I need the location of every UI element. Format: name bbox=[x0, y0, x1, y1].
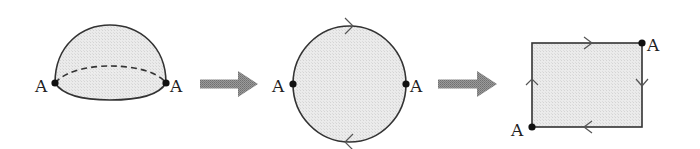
label-a-left: A bbox=[271, 76, 285, 96]
disk-shape bbox=[293, 26, 406, 142]
disk: A A bbox=[271, 18, 423, 149]
square: A A bbox=[510, 35, 660, 140]
diagram-canvas: A A A A A A bbox=[0, 0, 700, 149]
square-shape bbox=[532, 43, 642, 127]
right-arrow-icon bbox=[200, 71, 258, 97]
point-a-left-icon bbox=[51, 79, 58, 86]
label-a-left: A bbox=[34, 76, 48, 96]
point-a-left-icon bbox=[289, 80, 296, 87]
point-a-top-right-icon bbox=[638, 39, 645, 46]
point-a-right-icon bbox=[402, 80, 409, 87]
label-a-right: A bbox=[409, 76, 423, 96]
point-a-right-icon bbox=[162, 79, 169, 86]
label-a-bottom-left: A bbox=[510, 120, 524, 140]
right-arrow-icon bbox=[438, 71, 497, 97]
label-a-right: A bbox=[169, 76, 183, 96]
point-a-bottom-left-icon bbox=[528, 123, 535, 130]
label-a-top-right: A bbox=[646, 35, 660, 55]
hemisphere: A A bbox=[34, 25, 183, 100]
